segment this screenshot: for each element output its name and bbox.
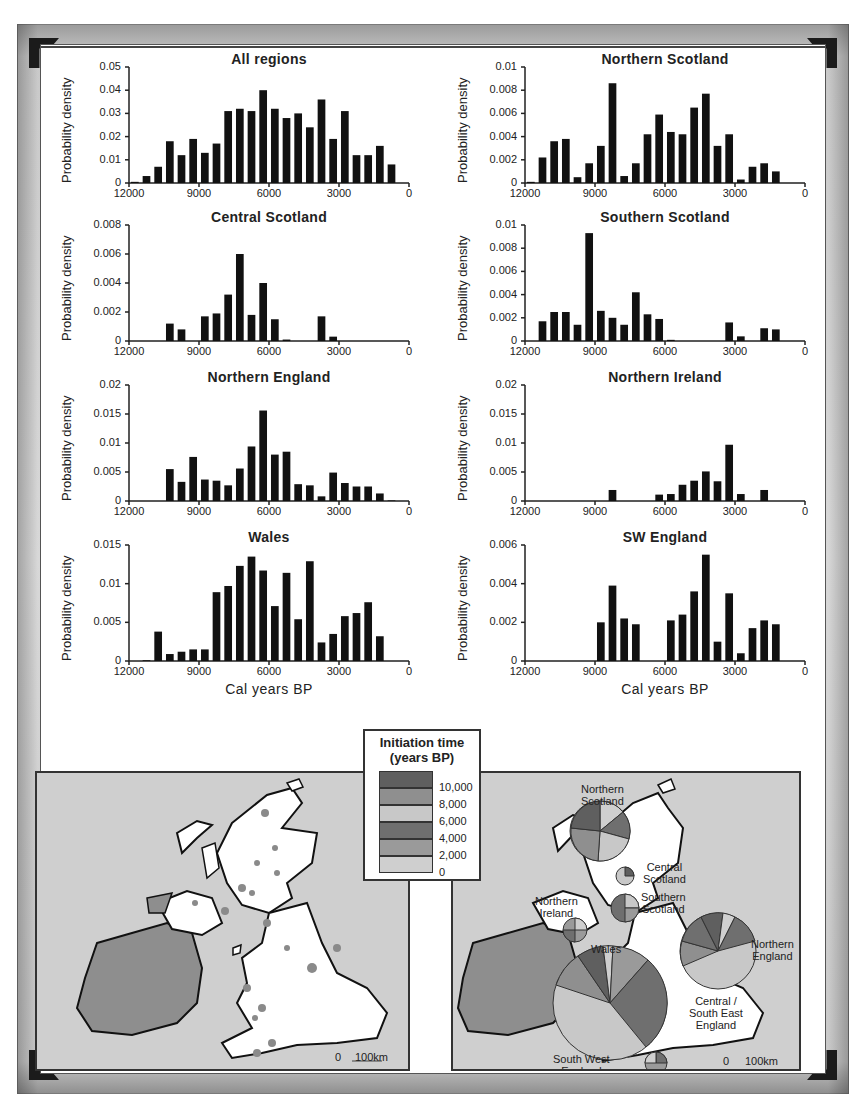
legend-title: Initiation time(years BP) (365, 735, 479, 765)
legend-initiation-time: Initiation time(years BP) 10,0008,0006,0… (363, 729, 481, 881)
map-site-locations: 0 100km (35, 771, 410, 1071)
y-tick-label: 0.02 (79, 378, 121, 390)
histogram-bar (259, 411, 267, 501)
histogram-bar (737, 494, 745, 501)
histogram-bar (655, 495, 663, 501)
chart-title: Central Scotland (129, 209, 409, 225)
y-tick-label: 0.005 (475, 465, 517, 477)
pie-central-scotland (616, 867, 634, 885)
histogram-bar (632, 292, 640, 341)
map-british-isles-left (37, 773, 410, 1071)
x-tick-label: 6000 (640, 345, 690, 357)
histogram-bar (318, 496, 326, 501)
x-tick-label: 6000 (244, 505, 294, 517)
pie-northern-ireland (563, 918, 587, 942)
histogram-bar (562, 312, 570, 341)
chart-all-regions: All regionsProbability density00.010.020… (41, 45, 441, 205)
x-tick-label: 3000 (314, 665, 364, 677)
histogram-bar (644, 314, 652, 341)
histogram-bar (760, 328, 768, 341)
y-tick-label: 0.01 (475, 218, 517, 230)
y-axis-label: Probability density (59, 78, 74, 184)
scale-distance: 100km (745, 1055, 778, 1067)
histogram-bar (667, 132, 675, 183)
histogram-bar (550, 312, 558, 341)
x-tick-label: 9000 (570, 345, 620, 357)
histogram-bar (376, 636, 384, 661)
legend-tick-label: 2,000 (439, 849, 467, 861)
histogram-bar (131, 182, 139, 183)
label-southern-scotland: SouthernScotland (641, 891, 686, 915)
histogram-bar (224, 485, 232, 501)
histogram-bar (353, 487, 361, 502)
histogram-bar (667, 340, 675, 341)
histogram-bar (655, 115, 663, 183)
legend-tick-label: 4,000 (439, 832, 467, 844)
x-tick-label: 0 (780, 345, 830, 357)
histogram-bar (760, 163, 768, 183)
y-tick-label: 0.006 (475, 264, 517, 276)
legend-swatch (379, 788, 433, 805)
histogram-bar (201, 480, 209, 501)
histogram-bar (655, 319, 663, 341)
histogram-bar (749, 628, 757, 661)
y-tick-label: 0.002 (475, 311, 517, 323)
y-tick-label: 0.008 (475, 83, 517, 95)
histogram-bar (760, 490, 768, 501)
histogram-bar (725, 445, 733, 501)
histogram-bar (760, 620, 768, 661)
histogram-bar (388, 500, 396, 501)
histogram-bar (388, 164, 396, 183)
histogram-bar (166, 141, 174, 183)
y-axis-label: Probability density (59, 236, 74, 342)
x-tick-label: 6000 (640, 505, 690, 517)
pie-northern-england (680, 913, 756, 989)
histogram-bar (283, 573, 291, 661)
x-tick-label: 12000 (500, 345, 550, 357)
x-tick-label: 0 (384, 665, 434, 677)
legend-tick-label: 8,000 (439, 798, 467, 810)
y-tick-label: 0.04 (79, 83, 121, 95)
histogram-bar (667, 494, 675, 501)
y-axis-label: Probability density (455, 236, 470, 342)
y-tick-label: 0.008 (475, 241, 517, 253)
histogram-bar (329, 473, 337, 501)
histogram-bar (213, 313, 221, 341)
histogram-bar (667, 620, 675, 661)
chart-sw-england: SW EnglandProbability density00.0020.004… (437, 523, 837, 683)
y-tick-label: 0.004 (475, 288, 517, 300)
legend-swatch (379, 771, 433, 788)
chart-northern-ireland: Northern IrelandProbability density00.00… (437, 363, 837, 523)
histogram-bar (166, 324, 174, 341)
chart-southern-scotland: Southern ScotlandProbability density00.0… (437, 203, 837, 363)
histogram-bar (620, 618, 628, 661)
map-regional-pies: NorthernScotland CentralScotland Souther… (451, 771, 801, 1071)
histogram-bar (236, 566, 244, 661)
legend-swatch (379, 805, 433, 822)
histogram-bar (224, 586, 232, 661)
chart-northern-scotland: Northern ScotlandProbability density00.0… (437, 45, 837, 205)
map-british-isles-right (453, 773, 801, 1071)
x-tick-label: 9000 (570, 187, 620, 199)
histogram-bar (574, 177, 582, 183)
histogram-bar (166, 654, 174, 661)
y-tick-label: 0.02 (475, 378, 517, 390)
histogram-bar (714, 481, 722, 501)
x-axis-label: Cal years BP (565, 681, 765, 697)
x-tick-label: 0 (780, 187, 830, 199)
histogram-bar (248, 557, 256, 661)
histogram-bar (376, 493, 384, 501)
histogram-bar (714, 642, 722, 661)
histogram-bar (772, 171, 780, 183)
y-tick-label: 0.004 (475, 130, 517, 142)
histogram-bar (702, 471, 710, 501)
histogram-bar (189, 139, 197, 183)
y-axis-label: Probability density (455, 396, 470, 502)
histogram-bar (248, 111, 256, 183)
y-tick-label: 0.05 (79, 60, 121, 72)
histogram-bar (644, 134, 652, 183)
pie-northern-scotland (570, 801, 630, 861)
x-tick-label: 9000 (174, 505, 224, 517)
chart-title: Wales (129, 529, 409, 545)
histogram-bar (597, 146, 605, 183)
